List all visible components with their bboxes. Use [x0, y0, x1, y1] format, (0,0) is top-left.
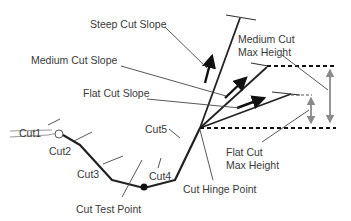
- start-point-marker: [55, 130, 63, 138]
- label-medium-cut-max-height-1: Medium Cut: [238, 33, 295, 45]
- leader-medium-max: [282, 55, 328, 90]
- steep-cut-slope-line: [200, 18, 240, 128]
- leader-cut5: [169, 129, 180, 138]
- label-flat-cut-max-height-2: Max Height: [226, 159, 279, 171]
- label-medium-cut-max-height-2: Max Height: [238, 46, 291, 58]
- label-cut-test-point: Cut Test Point: [76, 203, 141, 215]
- leader-cut2: [74, 132, 92, 141]
- label-cut2: Cut2: [49, 145, 71, 157]
- leader-hinge: [200, 130, 213, 180]
- label-flat-cut-max-height-1: Flat Cut: [226, 146, 263, 158]
- label-cut-hinge-point: Cut Hinge Point: [183, 183, 257, 195]
- label-cut3: Cut3: [77, 168, 99, 180]
- leader-test-point: [122, 160, 142, 197]
- leader-cut1: [48, 119, 60, 125]
- flat-cut-top-bar: [272, 92, 300, 95]
- label-flat-cut-slope: Flat Cut Slope: [83, 87, 150, 99]
- medium-cut-slope-line: [200, 67, 267, 128]
- steep-cut-top-bar: [226, 15, 256, 20]
- leader-cut3: [103, 156, 123, 164]
- label-cut4: Cut4: [149, 170, 171, 182]
- label-medium-cut-slope: Medium Cut Slope: [31, 54, 118, 66]
- leader-cut4: [158, 158, 161, 168]
- flat-cut-slope-line: [200, 94, 291, 128]
- label-cut5: Cut5: [145, 123, 167, 135]
- steep-arrow: [205, 56, 212, 83]
- label-cut1: Cut1: [19, 127, 41, 139]
- cut-test-point-marker: [141, 184, 148, 191]
- leader-steep: [165, 27, 207, 68]
- label-steep-cut-slope: Steep Cut Slope: [90, 18, 167, 30]
- cut-slope-diagram: Steep Cut Slope Medium Cut Slope Flat Cu…: [0, 0, 351, 221]
- leader-flat-max: [262, 110, 309, 142]
- medium-cut-top-bar: [251, 63, 268, 66]
